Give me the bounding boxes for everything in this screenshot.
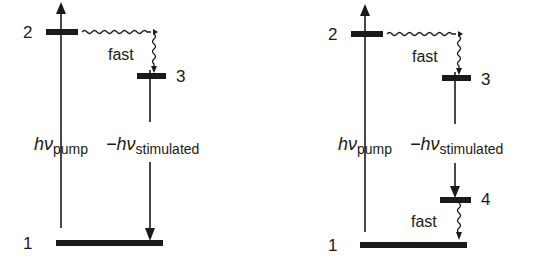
fast-decay-wavy-horizontal: [387, 33, 456, 36]
fast-label-top: fast: [412, 48, 438, 65]
energy-level-diagrams: 2 fast 3 hνpump −hνstimulated 1 2 fast 3: [0, 0, 538, 269]
pump-arrowhead-icon: [56, 2, 66, 14]
level-3-bar: [442, 75, 471, 81]
level-1-bar: [56, 240, 163, 246]
level-2-label: 2: [23, 23, 32, 42]
fast-decay-wavy-vertical: [458, 36, 461, 69]
level-4-bar: [440, 197, 471, 203]
fast-decay-lower-arrowhead-icon: [456, 232, 462, 240]
level-2-label: 2: [328, 25, 337, 44]
stimulated-label: −hνstimulated: [410, 134, 503, 157]
four-level-diagram: 2 fast 3 hνpump −hνstimulated 4 fast 1: [328, 4, 503, 255]
fast-decay-wavy-vertical: [153, 34, 156, 67]
level-1-label: 1: [23, 234, 32, 253]
fast-decay-arrowhead-icon: [456, 68, 462, 75]
wavy-arrowhead-icon: [458, 31, 463, 37]
fast-label: fast: [108, 46, 134, 63]
stimulated-arrowhead-icon: [145, 228, 155, 241]
stimulated-label: −hνstimulated: [106, 134, 199, 157]
level-3-label: 3: [481, 70, 490, 89]
level-3-bar: [137, 73, 166, 79]
fast-decay-arrowhead-icon: [151, 66, 157, 73]
fast-decay-wavy-lower: [458, 203, 461, 235]
stimulated-arrowhead-icon: [450, 186, 460, 198]
fast-label-bottom: fast: [411, 213, 437, 230]
three-level-diagram: 2 fast 3 hνpump −hνstimulated 1: [23, 2, 199, 253]
wavy-arrowhead-icon: [153, 29, 158, 35]
fast-decay-wavy-horizontal: [82, 31, 151, 34]
level-1-label: 1: [328, 236, 337, 255]
pump-arrowhead-icon: [360, 4, 370, 16]
level-4-label: 4: [481, 190, 490, 209]
level-3-label: 3: [176, 67, 185, 86]
level-1-bar: [360, 242, 467, 248]
level-2-bar: [46, 29, 78, 35]
level-2-bar: [351, 31, 383, 37]
